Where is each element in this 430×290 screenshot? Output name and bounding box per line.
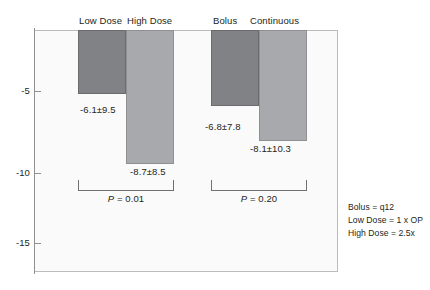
- y-tick-label-minus5: -5: [4, 86, 30, 96]
- y-axis-line: [34, 28, 35, 274]
- category-label-high-dose: High Dose: [127, 15, 172, 26]
- y-tick-label-minus15: -15: [4, 238, 30, 248]
- chart-notes: Bolus = q12 Low Dose = 1 x OP High Dose …: [348, 201, 430, 240]
- value-label-continuous: -8.1±10.3: [250, 143, 291, 154]
- y-tick-label-minus10: -10: [4, 168, 30, 178]
- value-label-low-dose: -6.1±9.5: [80, 104, 116, 115]
- category-label-continuous: Continuous: [250, 15, 299, 26]
- bar-continuous[interactable]: [259, 30, 307, 141]
- y-tick-mark-minus5: [35, 91, 41, 92]
- bar-bolus[interactable]: [211, 30, 259, 106]
- y-tick-mark-minus15: [35, 243, 41, 244]
- note-line-bolus: Bolus = q12: [348, 201, 430, 214]
- p-value-dose: P = 0.01: [78, 193, 174, 204]
- significance-bracket-dose: [78, 180, 174, 191]
- p-value-dose-text: = 0.01: [114, 193, 144, 204]
- note-line-low-dose: Low Dose = 1 x OP: [348, 214, 430, 227]
- value-label-high-dose: -8.7±8.5: [130, 166, 166, 177]
- significance-bracket-administration: [211, 180, 307, 191]
- p-value-administration: P = 0.20: [211, 193, 307, 204]
- bar-chart: -5 -10 -15 Low Dose High Dose Bolus Cont…: [0, 0, 430, 290]
- bar-high-dose[interactable]: [126, 30, 174, 164]
- p-value-administration-text: = 0.20: [247, 193, 277, 204]
- category-label-low-dose: Low Dose: [79, 15, 122, 26]
- value-label-bolus: -6.8±7.8: [205, 121, 241, 132]
- bar-low-dose[interactable]: [78, 30, 126, 94]
- category-label-bolus: Bolus: [213, 15, 237, 26]
- note-line-high-dose: High Dose = 2.5x: [348, 227, 430, 240]
- y-tick-mark-minus10: [35, 173, 41, 174]
